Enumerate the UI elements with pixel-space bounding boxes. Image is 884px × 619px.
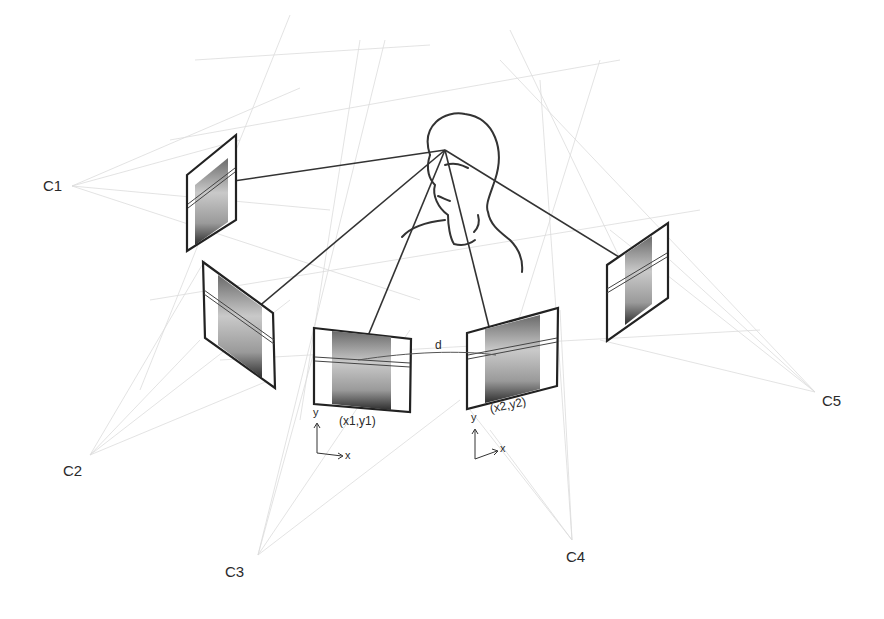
distance-label: d (435, 338, 442, 352)
axes-c3-icon (314, 423, 343, 459)
camera-label-c1: C1 (43, 177, 62, 194)
image-plane-c2 (203, 262, 275, 388)
camera-label-c5: C5 (822, 392, 841, 409)
diagram-svg (0, 0, 884, 619)
axis-x-label-c4: x (500, 442, 506, 454)
axis-y-label-c4: y (471, 411, 477, 423)
image-plane-c4 (467, 308, 558, 409)
camera-label-c4: C4 (566, 548, 585, 565)
diagram-canvas: C1 C2 C3 C4 C5 (x1,y1) (x2,y2) d y x y x (0, 0, 884, 619)
point-label-p1: (x1,y1) (339, 414, 376, 428)
frustum-lines (72, 15, 815, 555)
axis-y-label-c3: y (313, 406, 319, 418)
camera-label-c3: C3 (225, 563, 244, 580)
axis-x-label-c3: x (345, 449, 351, 461)
axes-c4-icon (472, 429, 498, 459)
camera-label-c2: C2 (63, 462, 82, 479)
image-plane-c3 (314, 328, 411, 412)
head-outline-icon (402, 113, 522, 272)
image-plane-c5 (607, 223, 668, 341)
